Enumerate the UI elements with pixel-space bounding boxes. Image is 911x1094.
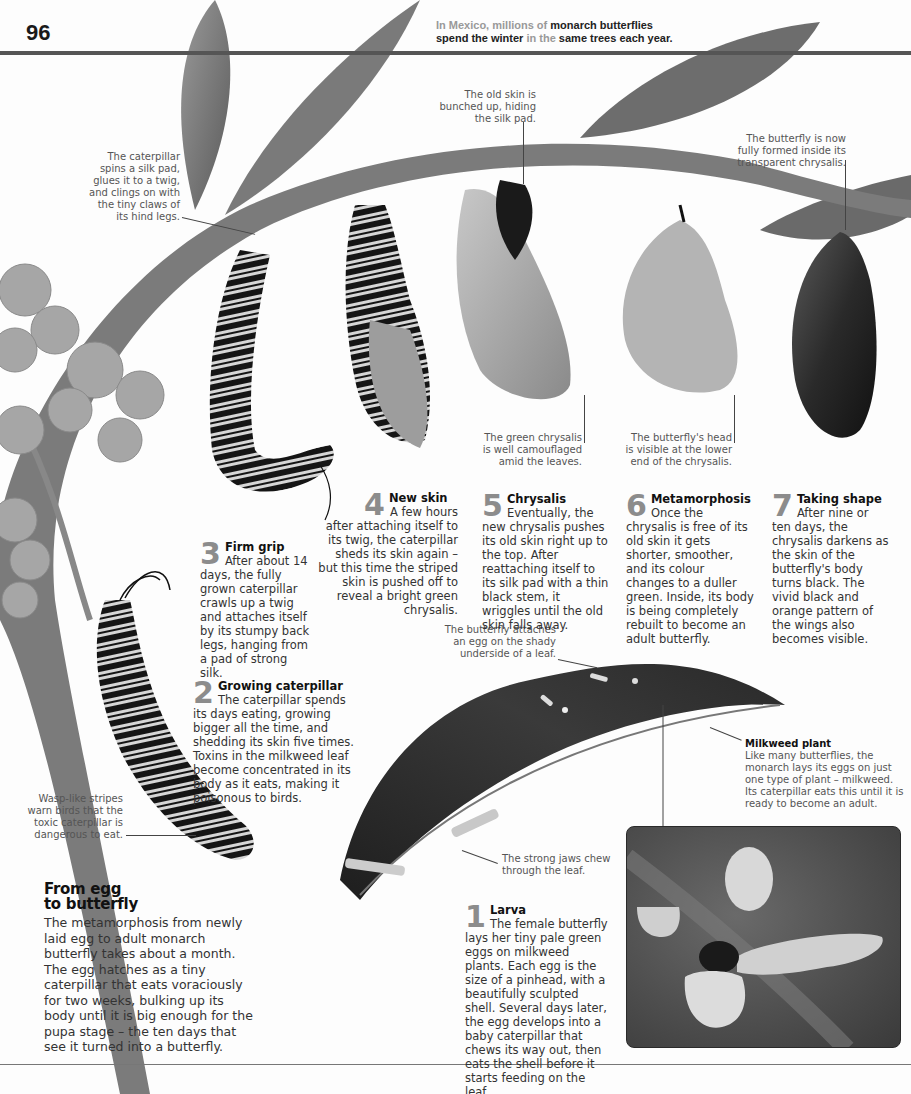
step-body: Eventually, the new chrysalis pushes its… — [482, 506, 608, 632]
egg-hatching-icon — [627, 827, 901, 1048]
caption-line: and clings on with — [40, 187, 180, 199]
caption-line: The butterfly is now — [700, 133, 846, 145]
caption-line: spins a silk pad, — [40, 163, 180, 175]
fact-text-muted: in the — [526, 32, 558, 44]
fact-text-end: . — [670, 32, 673, 44]
leader-line — [734, 395, 735, 443]
milkweed-body: Like many butterflies, the monarch lays … — [745, 750, 905, 810]
dark-chrysalis-icon — [792, 232, 877, 438]
bottom-rule — [0, 1064, 911, 1065]
caption-line: the tiny claws of — [40, 199, 180, 211]
caption-line: bunched up, hiding — [420, 101, 536, 113]
leader-line — [523, 122, 524, 184]
caption-line: the silk pad. — [420, 113, 536, 125]
step-6-metamorphosis: 6 Metamorphosis Once the chrysalis is fr… — [626, 493, 754, 646]
caption-line: end of the chrysalis. — [620, 456, 732, 468]
hanging-caterpillar-icon — [210, 250, 334, 492]
caption-fully-formed: The butterfly is now fully formed inside… — [700, 133, 846, 169]
leader-line — [845, 160, 846, 230]
caption-strong-jaws: The strong jaws chew through the leaf. — [502, 853, 622, 877]
leader-line — [584, 395, 585, 443]
step-number: 3 — [200, 542, 221, 566]
step-title: Growing caterpillar — [193, 680, 355, 693]
step-number: 6 — [626, 494, 647, 518]
caption-line: glues it to a twig, — [40, 175, 180, 187]
caption-line: its hind legs. — [40, 211, 180, 223]
caption-line: The green chrysalis — [470, 432, 582, 444]
caption-line: is well camouflaged — [470, 444, 582, 456]
step-body: The caterpillar spends its days eating, … — [193, 693, 354, 805]
metamorphosis-chrysalis-icon — [623, 220, 738, 393]
step-number: 5 — [482, 494, 503, 518]
step-body: The female butterfly lays her tiny pale … — [465, 917, 608, 1094]
step-3-firm-grip: 3 Firm grip After about 14 days, the ful… — [200, 541, 310, 680]
intro-title-line: to butterfly — [44, 897, 254, 912]
caption-silk-pad: The caterpillar spins a silk pad, glues … — [40, 151, 180, 223]
caption-line: The old skin is — [420, 89, 536, 101]
step-body: Once the chrysalis is free of its old sk… — [626, 506, 754, 646]
step-body: After nine or ten days, the chrysalis da… — [772, 506, 889, 646]
step-4-new-skin: 4 New skin A few hours after attaching i… — [318, 492, 458, 617]
caption-line: The caterpillar — [40, 151, 180, 163]
caption-line: warn birds that the — [15, 805, 123, 817]
milkweed-title: Milkweed plant — [745, 738, 905, 750]
caption-line: is visible at the lower — [620, 444, 732, 456]
top-rule — [0, 51, 911, 55]
step-title: Larva — [465, 904, 610, 917]
caption-line: underside of a leaf. — [440, 648, 556, 660]
caption-line: The strong jaws chew — [502, 853, 622, 865]
milkweed-note: Milkweed plant Like many butterflies, th… — [745, 738, 905, 810]
caption-line: through the leaf. — [502, 865, 622, 877]
step-number: 1 — [465, 905, 486, 929]
step-1-larva: 1 Larva The female butterfly lays her ti… — [465, 904, 610, 1094]
caption-old-skin: The old skin is bunched up, hiding the s… — [420, 89, 536, 125]
caption-line: dangerous to eat. — [15, 829, 123, 841]
caption-green-chrysalis: The green chrysalis is well camouflaged … — [470, 432, 582, 468]
step-body: After about 14 days, the fully grown cat… — [200, 554, 309, 680]
caption-butterfly-head: The butterfly's head is visible at the l… — [620, 432, 732, 468]
step-body: A few hours after attaching itself to it… — [318, 505, 458, 617]
fact-text-bold: same trees each year — [559, 32, 670, 44]
intro-block: From egg to butterfly The metamorphosis … — [44, 882, 254, 1055]
header-fact: In Mexico, millions of monarch butterfli… — [436, 19, 696, 45]
step-number: 7 — [772, 494, 793, 518]
caption-line: an egg on the shady — [440, 636, 556, 648]
fact-text-muted: In Mexico, millions of — [436, 19, 550, 31]
caption-line: fully formed inside its — [700, 145, 846, 157]
step-number: 4 — [364, 493, 385, 517]
caption-line: toxic caterpillar is — [15, 817, 123, 829]
fact-text-bold: monarch butterflies — [550, 19, 653, 31]
step-5-chrysalis: 5 Chrysalis Eventually, the new chrysali… — [482, 493, 610, 632]
caption-line: Wasp-like stripes — [15, 793, 123, 805]
leader-line — [126, 835, 196, 836]
photo-egg-hatching — [626, 826, 901, 1048]
caption-line: transparent chrysalis. — [700, 157, 846, 169]
step-number: 2 — [193, 681, 214, 705]
caption-line: amid the leaves. — [470, 456, 582, 468]
page-number: 96 — [26, 20, 50, 46]
caption-wasp-stripes: Wasp-like stripes warn birds that the to… — [15, 793, 123, 841]
step-2-growing-caterpillar: 2 Growing caterpillar The caterpillar sp… — [193, 680, 355, 805]
fact-text-bold: spend the winter — [436, 32, 526, 44]
step-7-taking-shape: 7 Taking shape After nine or ten days, t… — [772, 493, 890, 646]
intro-body: The metamorphosis from newly laid egg to… — [44, 915, 254, 1055]
caption-line: The butterfly's head — [620, 432, 732, 444]
